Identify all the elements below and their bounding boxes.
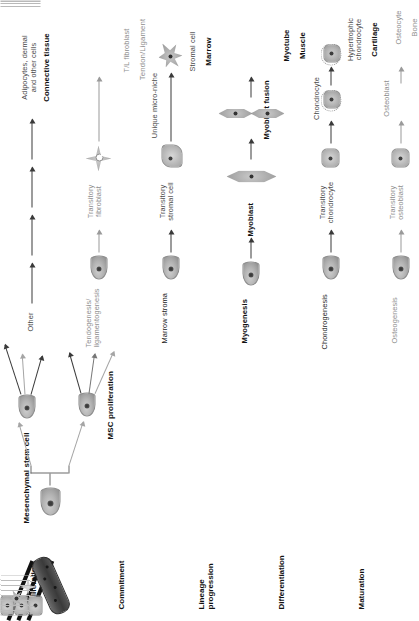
myoblast-icon bbox=[226, 163, 276, 189]
osteogenesis-msc-icon bbox=[392, 255, 409, 279]
arrow-branch-chondrogenesis bbox=[88, 353, 95, 393]
other-arrow-3 bbox=[31, 167, 32, 207]
chondrogenesis-msc-icon bbox=[322, 255, 339, 279]
fusing-myoblast-top bbox=[218, 103, 252, 123]
mesenchymal-stem-cell-icon bbox=[40, 487, 60, 515]
transitory-fibroblast-icon bbox=[85, 145, 111, 171]
tissue-marrow: Marrow bbox=[204, 21, 213, 81]
stromal-cell-icon bbox=[158, 43, 182, 67]
transitory-osteoblast-icon bbox=[391, 148, 409, 167]
arrow-branch-marrow bbox=[30, 356, 42, 395]
tissue-muscle: Muscle bbox=[298, 15, 307, 75]
lineage-marrow-differentiation: Unique micro-niche bbox=[150, 63, 159, 147]
stage-label-differentiation: Differentiation bbox=[276, 535, 285, 609]
hypertrophic-chondrocyte-icon bbox=[320, 43, 341, 65]
osteogenesis-arrow-2 bbox=[400, 121, 401, 143]
other-arrow-2 bbox=[31, 215, 32, 255]
lineage-tendogenesis-commitment: Tendogenesis/ ligamentogenesis bbox=[84, 283, 101, 347]
arrow-branch-tendogenesis bbox=[21, 354, 25, 394]
arrow-to-lower-msc bbox=[68, 421, 83, 465]
msc-node-lower bbox=[78, 392, 95, 416]
lineage-marrow-maturation: Stromal cell bbox=[188, 21, 197, 81]
chondrocyte-icon bbox=[320, 89, 341, 111]
myogenesis-arrow-1 bbox=[250, 238, 251, 258]
arrow-branch-other bbox=[4, 344, 21, 394]
msc-node-upper bbox=[18, 394, 35, 418]
marrow-msc-icon bbox=[162, 255, 179, 279]
tendogenesis-arrow-2 bbox=[98, 77, 99, 141]
chondrogenesis-arrow-1 bbox=[330, 230, 331, 252]
arrow-branch-myogenesis bbox=[68, 352, 81, 393]
lineage-osteogenesis-maturation: Osteocyte bbox=[394, 1, 403, 53]
root-branch-up bbox=[30, 465, 31, 473]
stage-label-commitment: Commitment bbox=[116, 535, 125, 609]
lineage-osteogenesis-progression: Transitory osteoblast bbox=[388, 173, 405, 231]
lineage-chondrogenesis-commitment: Chondrogenesis bbox=[320, 294, 329, 349]
root-branch-down bbox=[68, 465, 69, 473]
myogenesis-arrow-2 bbox=[250, 139, 251, 159]
root-split-bar bbox=[30, 472, 68, 473]
other-arrow-4 bbox=[31, 119, 32, 159]
tissue-bone: Bone bbox=[410, 5, 419, 49]
osteogenesis-arrow-1 bbox=[400, 230, 401, 252]
lineage-chondrogenesis-maturation: Hypertrophic chondrocyte bbox=[346, 3, 363, 75]
osteogenesis-arrow-3 bbox=[400, 67, 401, 83]
lineage-other-maturation: Adipocytes, dermal and other cells bbox=[20, 19, 37, 115]
stage-label-maturation: Maturation bbox=[356, 535, 365, 609]
myogenesis-msc-icon bbox=[242, 261, 259, 285]
lineage-myogenesis-progression: Myoblast bbox=[246, 202, 255, 236]
lineage-marrow-commitment: Marrow stroma bbox=[160, 292, 169, 343]
tissue-cartilage: Cartilage bbox=[370, 7, 379, 71]
tissue-connective-tissue: Connective tissue bbox=[42, 19, 51, 115]
tissue-tendon-ligament: Tendon/Ligament bbox=[138, 3, 147, 95]
chondrogenesis-arrow-2 bbox=[330, 121, 331, 143]
lineage-other-commitment: Other bbox=[26, 312, 35, 331]
tendogenesis-arrow-1 bbox=[98, 230, 99, 252]
lineage-chondrogenesis-progression: Transitory chondrocyte bbox=[318, 173, 335, 231]
myogenesis-arrow-3 bbox=[250, 77, 251, 97]
lineage-marrow-progression: Transitory stromal cell bbox=[158, 171, 175, 231]
lineage-chondrogenesis-differentiation: Chondrocyte bbox=[312, 69, 321, 127]
lineage-osteogenesis-differentiation: Osteoblast bbox=[382, 69, 391, 127]
marrow-arrow-2 bbox=[170, 73, 171, 141]
lineage-myogenesis-maturation: Myotube bbox=[282, 15, 291, 75]
lineage-myogenesis-commitment: Myogenesis bbox=[240, 299, 249, 343]
lineage-tendogenesis-progression: Transitory fibroblast bbox=[86, 173, 103, 229]
marrow-arrow-1 bbox=[170, 230, 171, 252]
lineage-tendogenesis-maturation: T/L fibroblast bbox=[122, 15, 131, 85]
chondrogenesis-arrow-3 bbox=[330, 67, 331, 85]
stage-label-lineage-progression: Lineage progression bbox=[196, 535, 215, 609]
lineage-osteogenesis-commitment: Osteogenesis bbox=[390, 297, 399, 343]
transitory-chondrocyte-icon bbox=[321, 148, 339, 167]
other-arrow-1 bbox=[31, 263, 32, 303]
msc-proliferation-label: MSC proliferation bbox=[106, 329, 115, 439]
root-connector bbox=[49, 473, 50, 485]
transitory-stromal-cell-icon bbox=[161, 144, 182, 167]
tendogenesis-msc-icon bbox=[90, 255, 107, 279]
